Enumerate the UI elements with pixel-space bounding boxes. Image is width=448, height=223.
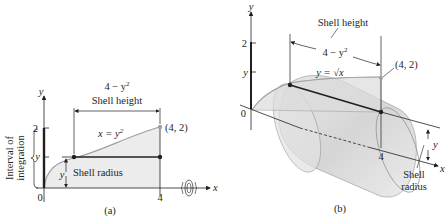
tick-label-0: 0 (37, 192, 42, 203)
point-leader (383, 68, 394, 77)
y-axis-label: y (248, 1, 254, 12)
tick-label-0: 0 (241, 108, 246, 119)
interval-label-1: Interval of (4, 135, 15, 180)
figure: y x 2 y 0 4 4 − y2 Shell height x = y2 (… (0, 0, 448, 223)
x-axis-label: x (212, 182, 218, 193)
height-expression: 4 − y2 (104, 80, 130, 92)
tick-label-4: 4 (157, 192, 163, 203)
point-label: (4, 2) (165, 122, 188, 134)
shell-height-leader (331, 28, 338, 38)
shell-radius-label-1: Shell (403, 169, 425, 180)
height-expression: 4 − y2 (322, 46, 348, 58)
shell-radius-label-2: radius (401, 181, 427, 192)
height-arrow-right (372, 63, 380, 65)
radius-y-label: y (59, 169, 65, 180)
strip-left-point (72, 155, 76, 159)
shell-radius-label: Shell radius (73, 167, 123, 178)
shell-height-label: Shell height (318, 17, 369, 28)
interval-label-2: integration (15, 135, 26, 181)
tick-label-y: y (34, 151, 40, 162)
height-arrow-left (291, 42, 300, 45)
strip-right-point (379, 110, 383, 114)
curve-label: x = y2 (97, 127, 124, 139)
shell-height-label: Shell height (92, 95, 143, 106)
panel-a: y x 2 y 0 4 4 − y2 Shell height x = y2 (… (4, 80, 218, 217)
y-axis-label: y (38, 86, 44, 97)
tick-label-2: 2 (242, 38, 247, 49)
curve-label: y = √x (315, 67, 344, 78)
point-4-2 (379, 76, 383, 80)
tick-label-2: 2 (33, 123, 38, 134)
caption-a: (a) (104, 205, 116, 217)
height-dim-left (300, 45, 316, 49)
tick-label-4: 4 (378, 151, 384, 162)
point-label: (4, 2) (395, 59, 418, 71)
tick-label-y: y (242, 67, 248, 78)
height-dim-right (353, 57, 372, 63)
caption-b: (b) (334, 203, 347, 215)
strip-left-point (288, 83, 292, 87)
strip-right-point (158, 155, 162, 159)
panel-b: y x 2 y 0 4 Shell height 4 − y2 y = √x (… (240, 1, 445, 215)
radius-y-label: y (432, 139, 438, 150)
point-4-2 (158, 125, 162, 129)
x-axis-label: x (439, 163, 445, 174)
